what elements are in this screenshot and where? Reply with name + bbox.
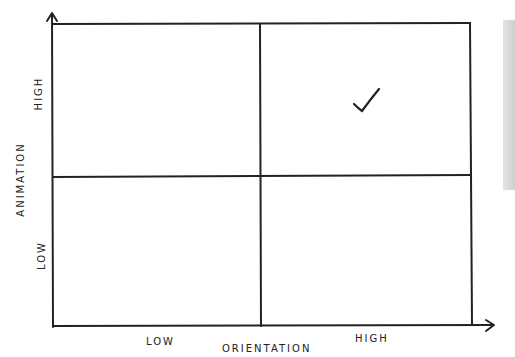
- y-high-label: HIGH: [33, 77, 44, 111]
- x-axis-line: [53, 325, 492, 326]
- top-border: [53, 23, 470, 24]
- y-low-label: LOW: [36, 241, 47, 270]
- x-low-label: LOW: [146, 336, 175, 347]
- horizontal-divider: [53, 175, 471, 177]
- x-high-label: HIGH: [355, 333, 389, 344]
- x-axis-title: ORIENTATION: [222, 343, 311, 354]
- y-axis-title: ANIMATION: [15, 142, 26, 216]
- checkmark-icon: [354, 89, 379, 111]
- vertical-divider: [260, 24, 261, 326]
- y-axis-line: [52, 14, 53, 327]
